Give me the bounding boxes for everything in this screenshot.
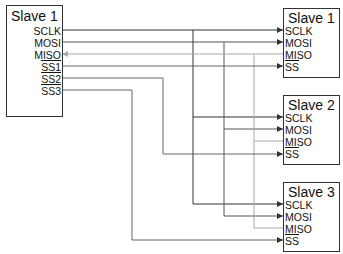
slave-1-miso: MISO [285, 49, 312, 61]
slave-2-miso: MISO [285, 136, 312, 148]
sclk-wires [62, 30, 283, 204]
slave-3-title: Slave 3 [288, 184, 335, 200]
slave-3-miso: MISO [285, 223, 312, 235]
slave-2-box: Slave 2 SCLK MOSI MISO SS [283, 95, 340, 165]
miso-wires [62, 54, 283, 228]
slave-3-sclk: SCLK [285, 199, 312, 211]
pin-mosi: MOSI [34, 37, 61, 49]
slave-1-box: Slave 1 SCLK MOSI MISO SS [283, 8, 340, 78]
slave-3-ss: SS [285, 235, 299, 247]
slave-1-mosi: MOSI [285, 37, 312, 49]
slave-2-mosi: MOSI [285, 124, 312, 136]
pin-miso: MISO [34, 49, 61, 61]
slave-2-ss: SS [285, 148, 299, 160]
slave-3-box: Slave 3 SCLK MOSI MISO SS [283, 182, 340, 252]
slave-2-sclk: SCLK [285, 112, 312, 124]
pin-ss3: SS3 [41, 85, 61, 97]
pin-ss2: SS2 [41, 73, 61, 85]
master-title: Slave 1 [11, 8, 58, 24]
master-box: Slave 1 SCLK MOSI MISO SS1 SS2 SS3 [6, 5, 63, 117]
slave-3-mosi: MOSI [285, 211, 312, 223]
slave-1-title: Slave 1 [288, 10, 335, 26]
ss-wires [62, 66, 283, 240]
slave-2-title: Slave 2 [288, 97, 335, 113]
slave-1-sclk: SCLK [285, 25, 312, 37]
pin-ss1: SS1 [41, 61, 61, 73]
slave-1-ss: SS [285, 61, 299, 73]
pin-sclk: SCLK [34, 25, 61, 37]
mosi-wires [62, 42, 283, 216]
